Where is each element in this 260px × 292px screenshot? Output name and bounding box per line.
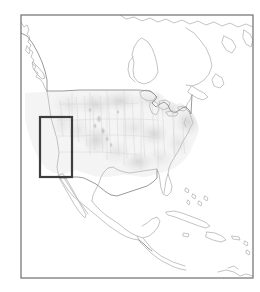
- north-america-map: [0, 0, 260, 292]
- map-figure: [0, 0, 260, 292]
